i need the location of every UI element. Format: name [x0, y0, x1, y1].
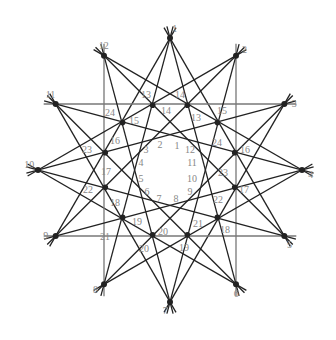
outer-point-label: 7 [163, 305, 168, 316]
outer-point-label: 5 [287, 239, 292, 250]
inner-point-label: 6 [145, 186, 150, 197]
outer-vertex [53, 101, 59, 107]
inner-point-label: 1 [175, 140, 180, 151]
chord-line [44, 101, 313, 173]
inner-point-label: 23 [82, 144, 92, 155]
inner-point-label: 14 [175, 89, 185, 100]
inner-point-label: 24 [212, 137, 222, 148]
outer-point-label: 1 [172, 23, 177, 34]
inner-point-label: 8 [174, 193, 179, 204]
inner-vertex [120, 215, 126, 221]
inner-point-label: 9 [188, 186, 193, 197]
chord-line [167, 26, 239, 295]
outer-point-label: 9 [43, 230, 48, 241]
outer-vertex [281, 101, 287, 107]
outer-vertex [233, 53, 239, 59]
inner-point-label: 11 [187, 157, 197, 168]
inner-point-label: 18 [220, 224, 230, 235]
outer-point-label: 12 [99, 40, 109, 51]
inner-point-label: 4 [139, 157, 144, 168]
outer-point-label: 11 [46, 89, 56, 100]
inner-point-label: 21 [193, 218, 203, 229]
outer-vertex [53, 233, 59, 239]
outer-vertex [167, 299, 173, 305]
outer-vertex [167, 35, 173, 41]
outer-point-label: 10 [24, 159, 34, 170]
chord-line [101, 44, 173, 313]
chord-line [44, 167, 313, 239]
point-labels: 1234567891011121314131415162415241623172… [24, 23, 313, 316]
inner-vertex [120, 120, 126, 126]
inner-vertex [150, 232, 156, 238]
inner-point-label: 21 [100, 231, 110, 242]
inner-vertex [102, 185, 108, 191]
inner-point-label: 23 [218, 167, 228, 178]
outer-point-label: 2 [242, 44, 247, 55]
inner-vertex [215, 120, 221, 126]
inner-point-label: 20 [139, 243, 149, 254]
outer-point-label: 8 [93, 284, 98, 295]
inner-point-label: 19 [132, 216, 142, 227]
inner-point-label: 10 [187, 173, 197, 184]
inner-vertex [102, 150, 108, 156]
inner-point-label: 15 [129, 115, 139, 126]
chord-lines [26, 26, 313, 313]
inner-point-label: 14 [161, 105, 171, 116]
inner-point-label: 16 [240, 144, 250, 155]
inner-point-label: 12 [185, 144, 195, 155]
inner-point-label: 7 [157, 193, 162, 204]
star-diagram: 1234567891011121314131415162415241623172… [0, 0, 336, 340]
inner-point-label: 3 [144, 144, 149, 155]
vertex-dots [35, 35, 305, 305]
inner-point-label: 17 [239, 184, 249, 195]
chord-line [167, 44, 239, 313]
inner-point-label: 24 [105, 107, 115, 118]
inner-point-label: 15 [217, 105, 227, 116]
inner-point-label: 22 [83, 184, 93, 195]
inner-vertex [232, 150, 238, 156]
inner-point-label: 2 [158, 139, 163, 150]
outer-vertex [233, 281, 239, 287]
inner-point-label: 16 [110, 135, 120, 146]
inner-point-label: 13 [141, 89, 151, 100]
outer-point-label: 4 [308, 169, 313, 180]
inner-point-label: 17 [101, 166, 111, 177]
inner-point-label: 22 [213, 194, 223, 205]
inner-point-label: 5 [139, 173, 144, 184]
inner-vertex [185, 102, 191, 108]
chord-line [101, 26, 173, 295]
chord-line [96, 96, 293, 293]
inner-vertex [215, 215, 221, 221]
inner-point-label: 19 [179, 242, 189, 253]
inner-point-label: 18 [110, 197, 120, 208]
inner-vertex [150, 102, 156, 108]
outer-vertex [299, 167, 305, 173]
inner-point-label: 13 [191, 112, 201, 123]
outer-vertex [35, 167, 41, 173]
outer-vertex [101, 53, 107, 59]
inner-point-label: 20 [158, 226, 168, 237]
outer-point-label: 3 [292, 98, 297, 109]
outer-point-label: 6 [234, 288, 239, 299]
inner-vertex [232, 185, 238, 191]
outer-vertex [101, 281, 107, 287]
inner-vertex [185, 232, 191, 238]
